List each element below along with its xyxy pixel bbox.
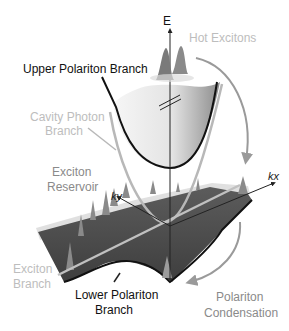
lower-polariton-label-2: Branch [95, 303, 133, 317]
polariton-diagram: E ky kx Hot Excitons Upper Polariton Bra… [0, 0, 289, 331]
condensation-label-2: Condensation [204, 306, 278, 320]
lower-polariton-leader [114, 273, 120, 282]
hot-exciton-peaks [150, 46, 194, 82]
exciton-reservoir-label-2: Reservoir [47, 180, 98, 194]
exciton-branch-label-1: Exciton [13, 262, 52, 276]
cavity-photon-label-1: Cavity Photon [30, 110, 105, 124]
exciton-reservoir-label-1: Exciton [52, 165, 91, 179]
lower-polariton-label-1: Lower Polariton [75, 288, 158, 302]
cavity-photon-leader [88, 128, 116, 150]
kx-axis-label: kx [268, 170, 279, 182]
exciton-branch-label-2: Branch [13, 277, 51, 291]
cavity-photon-label-2: Branch [45, 124, 83, 138]
hot-excitons-label: Hot Excitons [189, 31, 256, 45]
condensation-label-1: Polariton [216, 290, 263, 304]
upper-polariton-label: Upper Polariton Branch [23, 62, 148, 76]
ky-axis-label: ky [111, 190, 122, 202]
energy-axis-label: E [163, 14, 171, 28]
